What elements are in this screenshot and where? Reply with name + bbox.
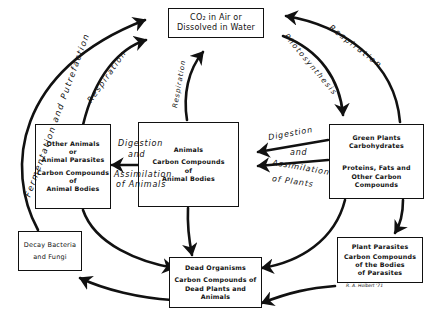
node-green-plants: Green Plants Carbohydrates Proteins, Fat… xyxy=(329,124,424,199)
node-dead-organisms: Dead Organisms Carbon Compounds of Dead … xyxy=(169,257,262,308)
plants-to-dead-arrow xyxy=(262,200,345,268)
animals-label: Animals xyxy=(174,146,204,154)
fungi-label: and Fungi xyxy=(33,253,67,261)
animals-of-label: of xyxy=(185,167,192,175)
digestion-animals-label-4: of Animals xyxy=(116,180,166,189)
parasites-to-dead-arrow xyxy=(262,286,335,303)
dead-plants-animals-label: Dead Plants and Animals xyxy=(170,285,261,301)
respiration-left-arrow xyxy=(83,40,146,125)
co2-label-2: Dissolved in Water xyxy=(177,23,255,33)
digestion-animals-label-2: and xyxy=(128,150,145,159)
animals-to-dead-arrow xyxy=(188,208,192,255)
other-animals-label: Other Animals xyxy=(46,140,99,148)
decay-bacteria-label: Decay Bacteria xyxy=(24,241,76,249)
green-plants-label: Green Plants xyxy=(352,134,400,142)
parasites-carbon-label: Carbon Compounds xyxy=(344,253,416,261)
carbohydrates-label: Carbohydrates xyxy=(349,142,404,150)
of-parasites-label: of Parasites xyxy=(358,269,403,277)
respiration-center-arrow xyxy=(186,52,203,120)
node-decay: Decay Bacteria and Fungi xyxy=(18,231,82,271)
node-co2: CO₂ in Air or Dissolved in Water xyxy=(168,8,264,38)
dead-to-decay-arrow xyxy=(80,278,172,300)
signature: R. A. Holbert '71 xyxy=(346,283,383,288)
digestion-animals-label-3: Assimilation xyxy=(114,170,172,179)
dead-carbon-label: Carbon Compounds of xyxy=(174,276,256,284)
or-label: or xyxy=(69,148,77,156)
other-of-label: of xyxy=(69,177,76,185)
dead-organisms-label: Dead Organisms xyxy=(185,264,246,272)
digestion-animals-label-1: Digestion xyxy=(118,139,163,148)
animals-carbon-label: Carbon Compounds xyxy=(152,158,224,166)
node-animals: Animals Carbon Compounds of Animal Bodie… xyxy=(138,122,239,207)
bodies-label: of the Bodies xyxy=(355,261,405,269)
co2-label-1: CO₂ in Air or xyxy=(190,13,242,23)
plant-parasites-label: Plant Parasites xyxy=(352,243,409,251)
other-animals-to-dead-arrow xyxy=(83,210,174,268)
node-plant-parasites: Plant Parasites Carbon Compounds of the … xyxy=(337,237,423,283)
other-animal-bodies-label: Animal Bodies xyxy=(46,185,99,193)
carbon-cycle-diagram: CO₂ in Air or Dissolved in Water Green P… xyxy=(0,0,427,316)
digestion-plants-label-2: and xyxy=(290,148,307,157)
animal-parasites-label: Animal Parasites xyxy=(42,156,105,164)
proteins-label: Proteins, Fats and xyxy=(342,164,410,172)
other-carbon-compounds-label: Carbon Compounds xyxy=(37,169,109,177)
other-carbon-label: Other Carbon Compounds xyxy=(330,173,423,189)
plants-to-parasites-arrow xyxy=(395,200,403,233)
